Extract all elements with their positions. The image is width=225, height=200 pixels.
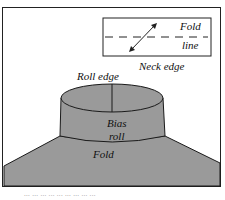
fold-label: Fold: [93, 148, 114, 160]
legend-fold-label: Fold: [180, 20, 201, 32]
garment-body: [4, 136, 220, 186]
caption: ... ... ... ... ... ... ... ... ...: [24, 190, 96, 198]
legend-line-label: line: [182, 39, 199, 51]
roll-label: roll: [109, 130, 125, 142]
neck-edge-label: Neck edge: [139, 60, 185, 72]
roll-edge-label: Roll edge: [77, 70, 119, 82]
bias-label: Bias: [107, 117, 127, 129]
